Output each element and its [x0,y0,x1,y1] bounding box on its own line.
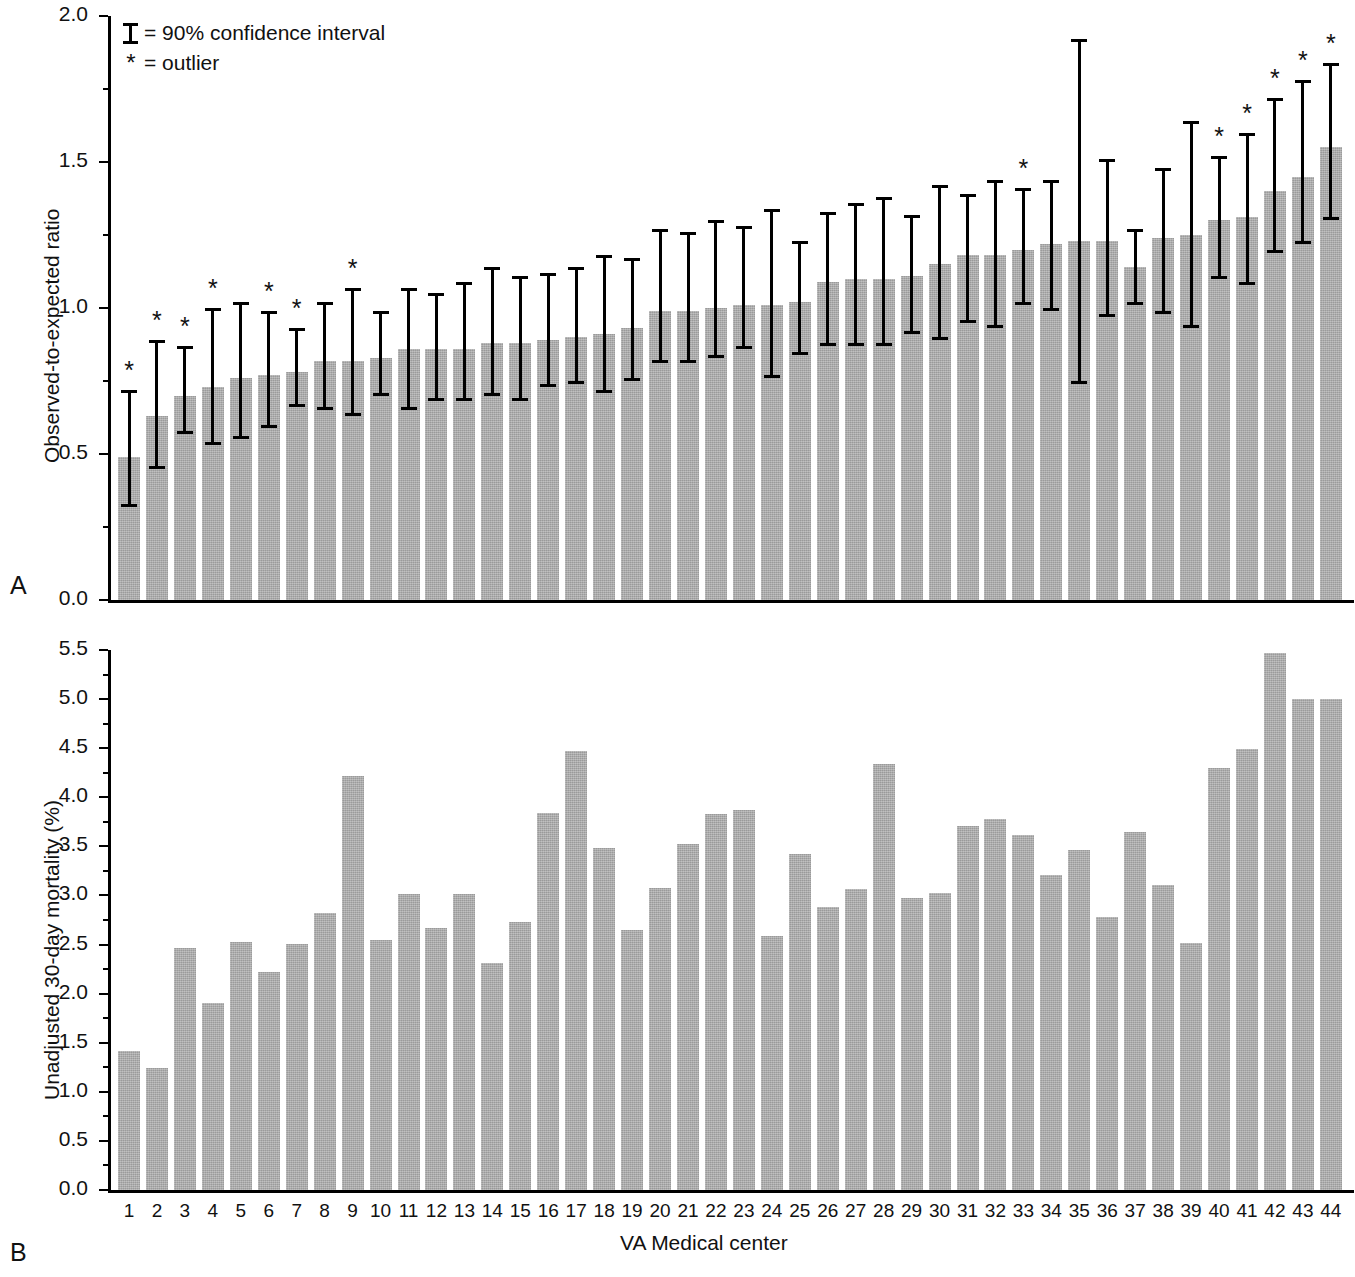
panel-a-outlier-marker: * [342,256,364,281]
panel-b-bar [370,940,392,1190]
panel-b-bar [984,819,1006,1190]
panel-b-bar [453,894,475,1190]
panel-a-error-bar [1320,63,1342,221]
panel-a-error-bar [1096,159,1118,317]
panel-b-bar [174,948,196,1190]
panel-b-bar [761,936,783,1190]
x-tick-label: 23 [729,1200,759,1222]
x-tick-label: 2 [142,1200,172,1222]
x-tick-label: 38 [1148,1200,1178,1222]
panel-a-error-bar [174,346,196,434]
panel-b-bar [342,776,364,1190]
panel-b-bar [118,1051,140,1190]
panel-a-error-bar [146,340,168,468]
figure-root: Observed-to-expected ratio 0.00.51.01.52… [0,0,1355,1277]
x-tick-label: 7 [282,1200,312,1222]
x-tick-label: 26 [813,1200,843,1222]
x-tick-label: 35 [1064,1200,1094,1222]
panel-a-error-bar [649,229,671,363]
panel-b-bar [286,944,308,1190]
panel-a-error-bar [1012,188,1034,305]
panel-a-error-bar [202,308,224,445]
x-tick-label: 37 [1120,1200,1150,1222]
panel-a-error-bar [789,241,811,355]
panel-b-bar [565,751,587,1190]
x-tick-label: 12 [421,1200,451,1222]
x-tick-label: 14 [477,1200,507,1222]
panel-b-bar [314,913,336,1190]
panel-a-error-bar [481,267,503,395]
legend-label-confidence-interval: = 90% confidence interval [144,21,385,45]
panel-a-error-bar [1180,121,1202,328]
panel-b-bar [230,942,252,1190]
x-tick-label: 32 [980,1200,1010,1222]
panel-a-error-bar [1292,80,1314,244]
panel-a-error-bar [509,276,531,402]
panel-b-bar [873,764,895,1190]
x-tick-label: 5 [226,1200,256,1222]
panel-a-error-bar [929,185,951,340]
panel-a-outlier-marker: * [1292,48,1314,73]
panel-b-plot-area [0,618,1355,1277]
x-tick-label: 34 [1036,1200,1066,1222]
panel-b-bar [1180,943,1202,1190]
x-tick-label: 4 [198,1200,228,1222]
panel-a-error-bar [677,232,699,363]
legend-row-outlier: * = outlier [118,48,385,78]
x-tick-label: 24 [757,1200,787,1222]
x-tick-label: 17 [561,1200,591,1222]
panel-b-bar [481,963,503,1190]
x-tick-label: 33 [1008,1200,1038,1222]
panel-a-error-bar [984,180,1006,329]
panel-b-bar [901,898,923,1190]
panel-b-bar [1124,832,1146,1190]
x-tick-label: 22 [701,1200,731,1222]
panel-a-outlier-marker: * [174,314,196,339]
panel-a-outlier-marker: * [118,358,140,383]
x-tick-label: 11 [394,1200,424,1222]
panel-b-bar [845,889,867,1190]
x-tick-label: 18 [589,1200,619,1222]
x-tick-label: 39 [1176,1200,1206,1222]
legend-label-outlier: = outlier [144,51,219,75]
panel-b-bar [957,826,979,1190]
panel-b-bar [1320,699,1342,1190]
x-tick-label: 15 [505,1200,535,1222]
panel-b-bar [649,888,671,1190]
panel-a-error-bar [286,328,308,407]
x-tick-label: 13 [449,1200,479,1222]
panel-a-error-bar [425,293,447,401]
panel-a-outlier-marker: * [1264,66,1286,91]
panel-a-error-bar [1236,133,1258,285]
x-tick-label: 44 [1316,1200,1346,1222]
panel-a-plot-area: ************* [0,0,1355,618]
panel-b-bar [398,894,420,1190]
panel-a-error-bar [901,215,923,335]
x-tick-label: 28 [869,1200,899,1222]
panel-b-bar [1040,875,1062,1190]
panel-a-outlier-marker: * [286,296,308,321]
panel-b-bar [202,1003,224,1190]
panel-a-error-bar [1152,168,1174,314]
panel-b-bar [1096,917,1118,1190]
panel-a-x-axis-line [108,600,1354,603]
panel-a-error-bar [761,209,783,378]
panel-a-error-bar [453,282,475,402]
panel-b-unadjusted-mortality-chart: Unadjusted 30-day mortality (%) 0.00.51.… [0,618,1355,1277]
panel-a-error-bar [957,194,979,322]
panel-a-bar [1264,191,1286,600]
panel-a-outlier-marker: * [258,279,280,304]
x-tick-label: 16 [533,1200,563,1222]
panel-b-bar [509,922,531,1190]
panel-a-error-bar [1068,39,1090,384]
legend-row-confidence-interval: = 90% confidence interval [118,18,385,48]
panel-label-a: A [10,571,27,600]
x-tick-label: 20 [645,1200,675,1222]
panel-b-bar [929,893,951,1190]
x-tick-label: 19 [617,1200,647,1222]
panel-b-bar [1208,768,1230,1190]
x-tick-label: 29 [897,1200,927,1222]
panel-a-error-bar [705,220,727,357]
x-tick-label: 41 [1232,1200,1262,1222]
panel-b-bar [789,854,811,1190]
